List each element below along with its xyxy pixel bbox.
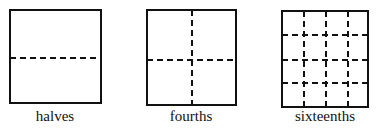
- fourths-label: fourths: [131, 108, 251, 125]
- halves-label: halves: [0, 108, 115, 125]
- sixteenths-label: sixteenths: [265, 108, 376, 125]
- sixteenths-square: [282, 11, 368, 107]
- fourths-square: [147, 10, 236, 105]
- halves-square: [10, 10, 101, 103]
